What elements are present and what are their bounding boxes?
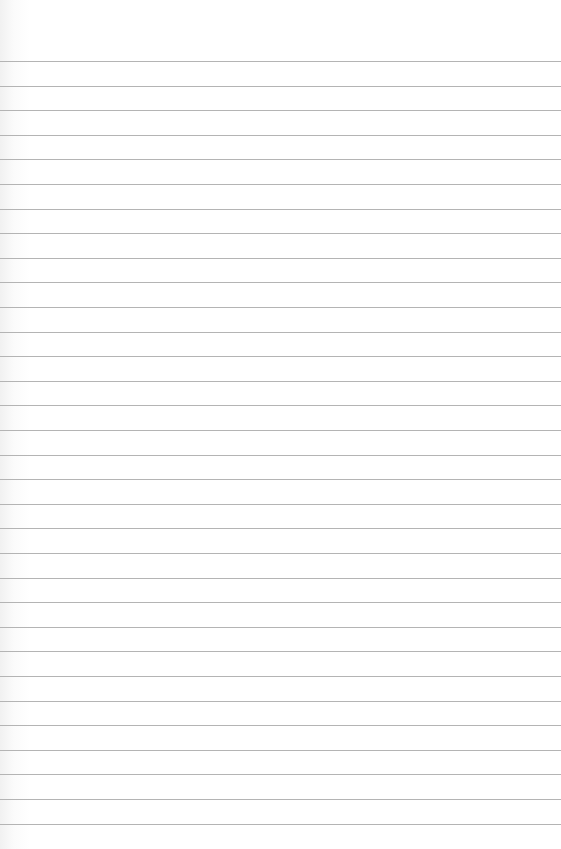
ruled-line — [0, 824, 561, 825]
ruled-line — [0, 381, 561, 382]
ruled-line — [0, 356, 561, 357]
ruled-line — [0, 455, 561, 456]
ruled-line — [0, 479, 561, 480]
ruled-line — [0, 209, 561, 210]
ruled-line — [0, 61, 561, 62]
ruled-line — [0, 627, 561, 628]
ruled-line — [0, 307, 561, 308]
ruled-line — [0, 282, 561, 283]
ruled-line — [0, 602, 561, 603]
ruled-line — [0, 159, 561, 160]
ruled-line — [0, 799, 561, 800]
ruled-line — [0, 651, 561, 652]
ruled-line — [0, 578, 561, 579]
ruled-line — [0, 774, 561, 775]
ruled-line — [0, 184, 561, 185]
lined-paper-sheet — [0, 0, 561, 849]
ruled-line — [0, 676, 561, 677]
ruled-line — [0, 405, 561, 406]
ruled-line — [0, 233, 561, 234]
ruled-line — [0, 528, 561, 529]
ruled-line — [0, 725, 561, 726]
ruled-line — [0, 430, 561, 431]
ruled-line — [0, 750, 561, 751]
ruled-line — [0, 504, 561, 505]
ruled-line — [0, 332, 561, 333]
ruled-line — [0, 553, 561, 554]
ruled-line — [0, 258, 561, 259]
ruled-line — [0, 701, 561, 702]
ruled-line — [0, 135, 561, 136]
ruled-line — [0, 110, 561, 111]
bleed-through-text — [165, 0, 405, 8]
ruled-line — [0, 86, 561, 87]
